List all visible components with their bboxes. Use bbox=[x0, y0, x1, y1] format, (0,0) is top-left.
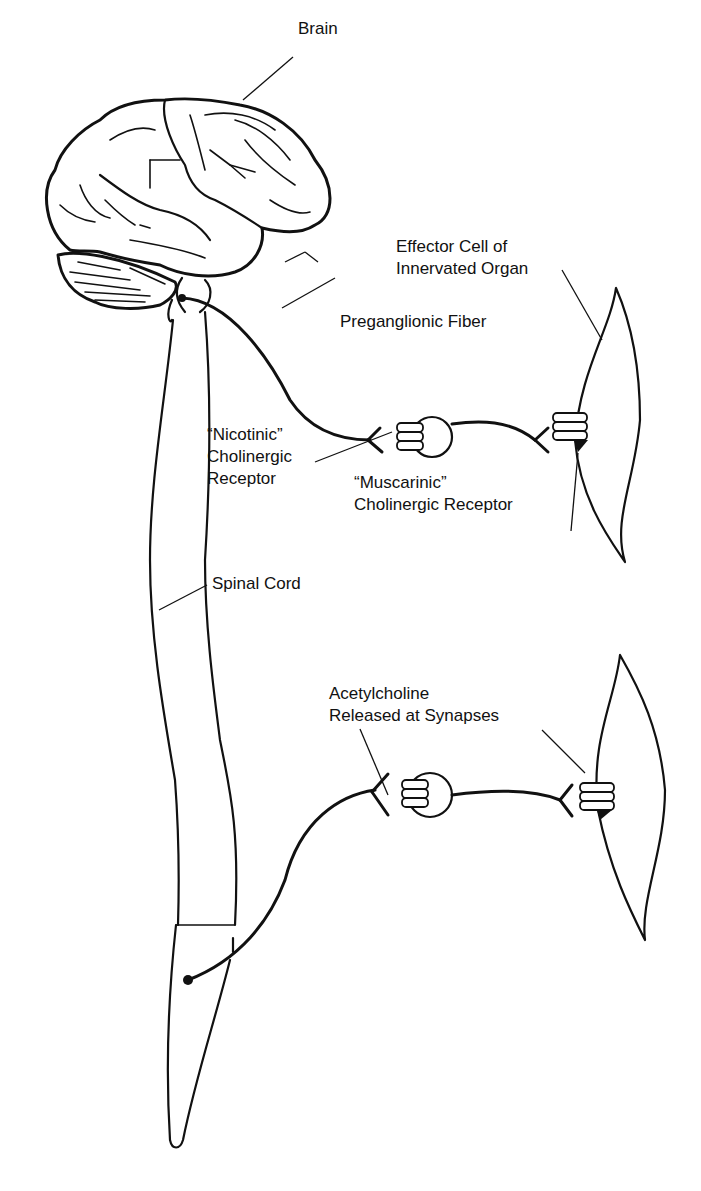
nicotinic-label-line1: “Nicotinic” bbox=[207, 424, 283, 445]
muscarinic-label-line1: “Muscarinic” bbox=[354, 472, 447, 493]
cerebellum bbox=[58, 253, 176, 308]
spinal-cord-label: Spinal Cord bbox=[212, 573, 301, 594]
preganglionic-label: Preganglionic Fiber bbox=[340, 311, 486, 332]
nicotinic-label-line2: Cholinergic bbox=[207, 446, 292, 467]
acetylcholine-label-line2: Released at Synapses bbox=[329, 705, 499, 726]
brain-label: Brain bbox=[298, 18, 338, 39]
acetylcholine-label-line1: Acetylcholine bbox=[329, 683, 429, 704]
spinal-cord bbox=[150, 278, 236, 1148]
nicotinic-label-line3: Receptor bbox=[207, 468, 276, 489]
muscarinic-label-line2: Cholinergic Receptor bbox=[354, 494, 513, 515]
brain bbox=[47, 99, 330, 276]
diagram-canvas bbox=[0, 0, 701, 1191]
effector-label-line2: Innervated Organ bbox=[396, 258, 528, 279]
effector-label-line1: Effector Cell of bbox=[396, 236, 507, 257]
